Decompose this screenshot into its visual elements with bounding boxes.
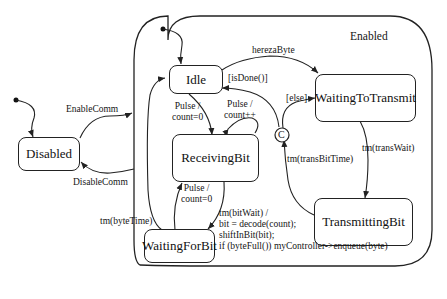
label-pulse-count0-wait: Pulse / count=0 [181,183,212,205]
label-bit-wait-action: tm(bitWait) / bit = decode(count); shift… [219,208,388,252]
state-waiting-for-bit[interactable]: WaitingForBit [144,229,215,263]
label-pulse-line1: Pulse / [172,101,203,112]
label-bit-wait-line1: tm(bitWait) / [219,208,388,219]
label-else: [else] [286,93,307,104]
state-idle[interactable]: Idle [169,65,223,94]
state-receiving-bit[interactable]: ReceivingBit [172,134,259,182]
label-pulse-line2: count++ [224,110,256,121]
label-bit-wait-line4: if (byteFull()) myController->enqueue(by… [219,241,388,252]
label-pulse-count0-idle: Pulse / count=0 [172,101,203,123]
label-pulse-line2: count=0 [181,194,212,205]
label-byte-time: tm(byteTime) [100,216,152,227]
state-disabled[interactable]: Disabled [18,137,80,171]
label-pulse-line2: count=0 [172,112,203,123]
state-waiting-to-transmit-label: WaitingToTransmit [315,90,416,106]
label-bit-wait-line2: bit = decode(count); [219,219,388,230]
composite-state-label: Enabled [350,31,388,42]
state-disabled-label: Disabled [26,146,72,162]
state-receiving-bit-label: ReceivingBit [181,150,250,166]
state-waiting-to-transmit[interactable]: WaitingToTransmit [315,74,416,122]
label-bit-wait-line3: shiftInBit(bit); [219,230,388,241]
label-enable-comm: EnableComm [66,104,118,115]
label-pulse-line1: Pulse / [224,99,256,110]
label-hereza-byte: herezaByte [252,45,295,56]
label-disable-comm: DisableComm [73,177,128,188]
label-pulse-countpp: Pulse / count++ [224,99,256,121]
label-is-done: [isDone()] [228,73,268,84]
state-idle-label: Idle [186,72,206,88]
label-trans-wait: tm(transWait) [362,143,415,154]
label-trans-bit-time: tm(transBitTime) [287,154,353,165]
state-waiting-for-bit-label: WaitingForBit [142,238,217,254]
label-pulse-line1: Pulse / [181,183,212,194]
choice-label: C [278,129,285,140]
